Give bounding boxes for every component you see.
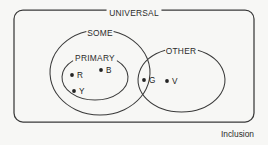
point-r: R — [70, 71, 83, 80]
point-b-dot — [99, 68, 103, 72]
point-g-label: G — [149, 76, 155, 85]
point-r-dot — [70, 73, 74, 77]
point-v-label: V — [172, 77, 178, 86]
point-v: V — [165, 77, 178, 86]
venn-diagram-canvas: UNIVERSAL SOME PRIMARY OTHER RBYGV Inclu… — [0, 0, 268, 145]
diagram-caption: Inclusion — [221, 129, 254, 139]
point-g: G — [142, 76, 155, 85]
point-y-label: Y — [79, 87, 85, 96]
point-b: B — [99, 66, 112, 75]
some-set-outline — [50, 32, 150, 115]
point-g-dot — [142, 78, 146, 82]
universal-border — [14, 10, 254, 122]
some-set — [50, 32, 150, 115]
some-set-label: SOME — [87, 28, 113, 38]
other-set-label: OTHER — [166, 46, 197, 56]
point-b-label: B — [106, 66, 112, 75]
primary-set — [62, 61, 128, 100]
universal-set — [14, 10, 254, 122]
inclusion-diagram: UNIVERSAL SOME PRIMARY OTHER RBYGV Inclu… — [0, 0, 268, 145]
point-y-dot — [72, 89, 76, 93]
point-v-dot — [165, 79, 169, 83]
primary-set-label: PRIMARY — [75, 53, 115, 63]
universal-set-label: UNIVERSAL — [109, 8, 159, 18]
element-points-layer: RBYGV — [70, 66, 178, 96]
point-r-label: R — [77, 71, 83, 80]
primary-set-outline — [62, 61, 128, 100]
